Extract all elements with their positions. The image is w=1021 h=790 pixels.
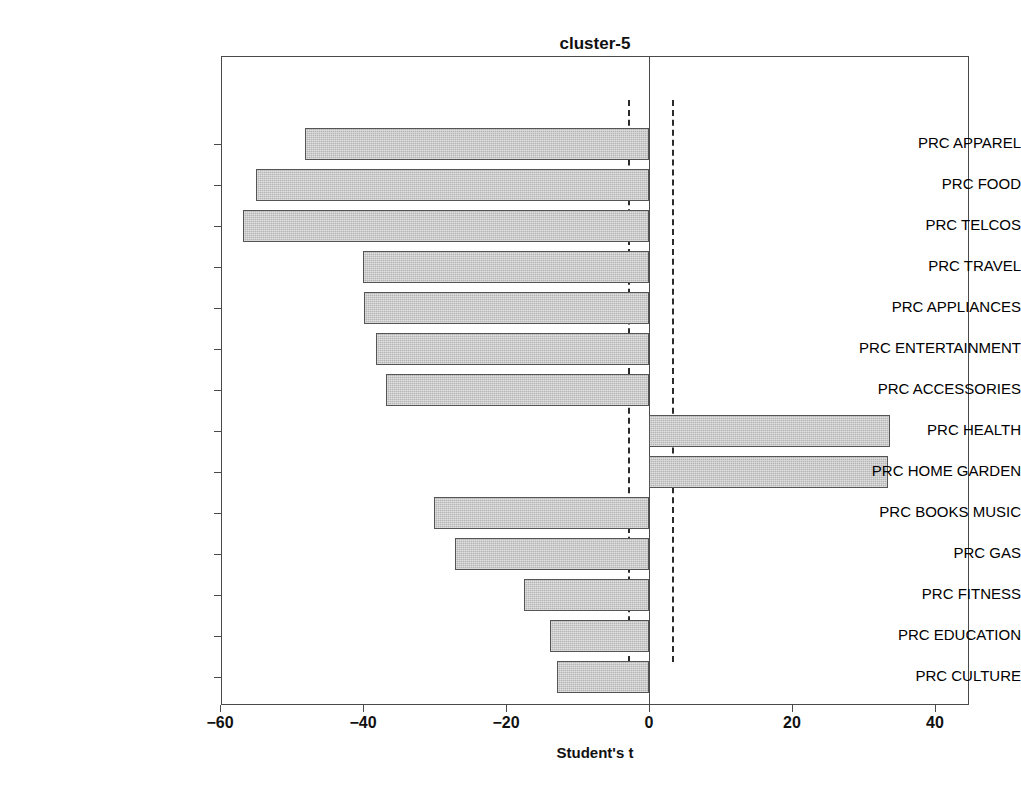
y-axis-label: PRC HEALTH — [811, 423, 1021, 437]
x-axis-tick-label: 40 — [926, 714, 944, 732]
y-axis-label: PRC GAS — [811, 546, 1021, 560]
y-axis-label: PRC EDUCATION — [811, 628, 1021, 642]
y-axis-tick — [214, 308, 221, 309]
y-axis-tick — [214, 554, 221, 555]
x-axis-tick — [506, 705, 507, 712]
x-axis-tick-label: −20 — [492, 714, 519, 732]
y-axis-label: PRC CULTURE — [811, 669, 1021, 683]
x-axis-tick-label: −40 — [349, 714, 376, 732]
y-axis-label: PRC TRAVEL — [811, 259, 1021, 273]
x-axis-tick-label: 20 — [783, 714, 801, 732]
x-axis-tick — [792, 705, 793, 712]
chart-title: cluster-5 — [560, 34, 631, 54]
plot-area — [221, 56, 969, 705]
y-axis-tick — [214, 677, 221, 678]
x-axis-title: Student's t — [557, 744, 634, 761]
y-axis-tick — [214, 513, 221, 514]
x-axis-tick — [649, 705, 650, 712]
x-axis-tick-label: −60 — [206, 714, 233, 732]
y-axis-label: PRC ACCESSORIES — [811, 382, 1021, 396]
y-axis-tick — [214, 595, 221, 596]
y-axis-tick — [214, 185, 221, 186]
y-axis-label: PRC TELCOS — [811, 218, 1021, 232]
x-axis-tick — [363, 705, 364, 712]
y-axis-tick — [214, 226, 221, 227]
x-axis-tick — [935, 705, 936, 712]
y-axis-label: PRC FITNESS — [811, 587, 1021, 601]
y-axis-tick — [214, 267, 221, 268]
bar-chart: cluster-5 PRC APPARELPRC FOODPRC TELCOSP… — [0, 0, 1021, 790]
y-axis-label: PRC APPAREL — [811, 136, 1021, 150]
y-axis-label: PRC HOME GARDEN — [811, 464, 1021, 478]
y-axis-label: PRC ENTERTAINMENT — [811, 341, 1021, 355]
y-axis-tick — [214, 390, 221, 391]
y-axis-tick — [214, 349, 221, 350]
y-axis-tick — [214, 636, 221, 637]
y-axis-label: PRC BOOKS MUSIC — [811, 505, 1021, 519]
x-axis-tick-label: 0 — [645, 714, 654, 732]
y-axis-label: PRC APPLIANCES — [811, 300, 1021, 314]
y-axis-tick — [214, 431, 221, 432]
y-axis-label: PRC FOOD — [811, 177, 1021, 191]
y-axis-tick — [214, 472, 221, 473]
y-axis-tick — [214, 144, 221, 145]
x-axis-tick — [220, 705, 221, 712]
